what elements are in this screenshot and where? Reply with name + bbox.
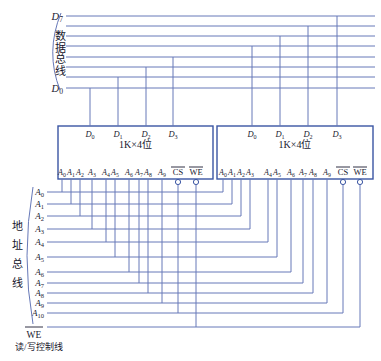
chip-right-pin-WE: WE	[353, 167, 366, 177]
address-label-A10: A10	[31, 308, 44, 319]
address-label-A3: A3	[34, 224, 44, 235]
chip-right-pin-CS: CS	[338, 167, 349, 177]
left-cs-bubble	[175, 179, 180, 184]
left-we-bubble	[193, 179, 198, 184]
address-label-A6: A6	[34, 267, 45, 278]
chip-left-pin-CS: CS	[173, 167, 184, 177]
address-bus-brace	[27, 187, 33, 324]
right-we-bubble	[357, 179, 362, 184]
address-label-A4: A4	[34, 237, 45, 248]
data-bus-top-label: D7	[51, 11, 64, 24]
we-control-label: WE	[27, 330, 42, 340]
address-label-A1: A1	[34, 199, 44, 210]
data-bus-label: 数据总线	[54, 31, 66, 77]
data-bus-bottom-label: D0	[51, 83, 64, 96]
right-cs-bubble	[340, 179, 345, 184]
address-label-A5: A5	[34, 252, 44, 263]
circuit-diagram: D7D0A0A1A2A3A4A5A6A7A8A9A10WE1K×4位D0D1D2…	[0, 0, 381, 361]
chip-left-pin-WE: WE	[189, 167, 202, 177]
rw-control-caption: 读/写控制线	[15, 340, 63, 353]
address-label-A2: A2	[34, 211, 44, 222]
address-bus-label: 地址总线	[11, 217, 23, 293]
address-label-A0: A0	[34, 187, 44, 198]
